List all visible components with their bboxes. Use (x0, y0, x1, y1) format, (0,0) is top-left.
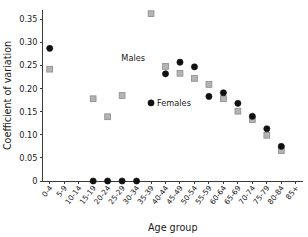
data-point-males (90, 96, 96, 102)
y-tick-label: 0.15 (19, 107, 37, 117)
data-point-females (220, 90, 226, 96)
chart-figure: 00.050.100.150.200.250.300.350-45-910-14… (0, 0, 308, 237)
data-point-females (148, 100, 154, 106)
data-point-females (235, 100, 241, 106)
y-tick-label: 0.20 (19, 84, 37, 94)
data-point-females (249, 113, 255, 119)
data-point-females (47, 45, 53, 51)
y-tick-label: 0.10 (19, 130, 37, 140)
data-point-males (206, 82, 212, 88)
data-point-males (163, 63, 169, 69)
data-point-males (148, 11, 154, 17)
scatter-plot: 00.050.100.150.200.250.300.350-45-910-14… (0, 0, 308, 237)
data-point-males (221, 96, 227, 102)
x-tick-label: 80-84 (266, 183, 286, 206)
data-point-males (192, 76, 198, 82)
data-point-females (191, 64, 197, 70)
x-tick-label: 85+ (284, 184, 301, 202)
y-tick-label: 0.25 (19, 60, 37, 70)
data-point-females (119, 178, 125, 184)
data-point-females (90, 178, 96, 184)
data-point-females (162, 71, 168, 77)
x-axis-title: Age group (148, 222, 197, 233)
data-point-males (119, 93, 125, 99)
data-point-females (206, 93, 212, 99)
x-tick-label: 0-4 (40, 183, 55, 198)
data-point-females (264, 126, 270, 132)
y-tick-label: 0.30 (19, 37, 37, 47)
data-point-males (177, 70, 183, 76)
data-point-males (105, 114, 111, 120)
data-point-males (235, 108, 241, 114)
data-point-females (177, 59, 183, 65)
data-point-males (47, 66, 53, 72)
data-point-females (278, 143, 284, 149)
y-tick-label: 0.35 (19, 14, 37, 24)
y-tick-label: 0.05 (19, 153, 37, 163)
data-point-females (133, 178, 139, 184)
y-axis-title: Coefficient of variation (2, 41, 13, 150)
data-point-females (105, 178, 111, 184)
y-tick-label: 0 (32, 176, 37, 186)
data-point-males (264, 132, 270, 138)
series-annotation-females: Females (157, 98, 191, 108)
series-annotation-males: Males (121, 53, 145, 63)
